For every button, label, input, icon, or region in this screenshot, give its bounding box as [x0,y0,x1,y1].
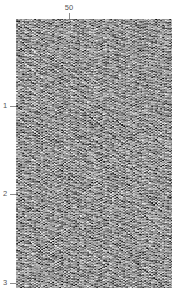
seismic-data-canvas [16,19,172,288]
seismic-section-panel [16,19,172,288]
left-axis: 1 2 3 [0,0,16,296]
y-tick-label-2: 2 [3,190,7,198]
top-axis: 50 [0,0,178,19]
y-tick-label-3: 3 [3,279,7,287]
y-tick-label-1: 1 [3,102,7,110]
seismic-figure: 50 1 2 3 [0,0,178,296]
x-tick-label-50: 50 [65,4,74,12]
